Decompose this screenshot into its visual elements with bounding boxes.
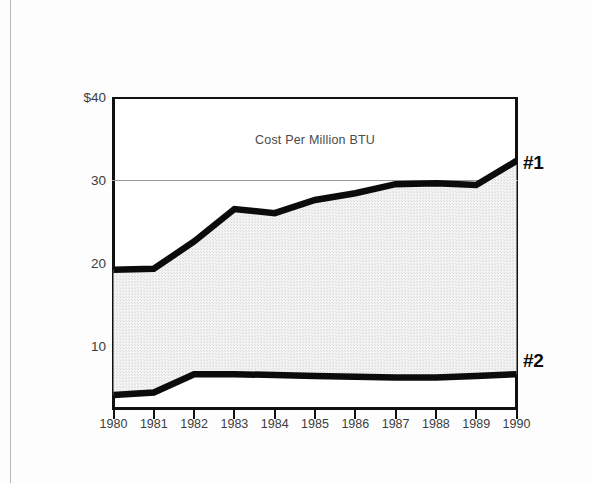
x-axis-tick-label: 1981 [140,417,168,431]
chart-figure: Cost Per Million BTU $40302010 198019811… [0,0,591,483]
x-axis-tick-label: 1982 [180,417,208,431]
y-axis-tick-labels: $40302010 [56,0,106,483]
x-axis-tick-label: 1988 [422,417,450,431]
x-axis-tick-label: 1984 [261,417,289,431]
y-axis-tick-label: 30 [60,173,106,188]
page-background: Cost Per Million BTU $40302010 198019811… [0,0,591,483]
x-axis-tick-label: 1980 [100,417,128,431]
y-axis-tick-label: $40 [60,90,106,105]
x-axis-tick-label: 1983 [220,417,248,431]
series-callout-1: #1 [523,152,544,174]
x-axis-tick-label: 1989 [462,417,490,431]
x-axis-tick-label: 1987 [382,417,410,431]
x-axis-tick-label: 1990 [503,417,531,431]
x-axis-tick-label: 1985 [301,417,329,431]
gridline-30 [112,180,518,181]
x-axis-tick-label: 1986 [341,417,369,431]
y-axis-tick-label: 10 [60,339,106,354]
y-axis-tick-label: 20 [60,256,106,271]
chart-title: Cost Per Million BTU [112,133,518,147]
series-callout-2: #2 [523,350,544,372]
